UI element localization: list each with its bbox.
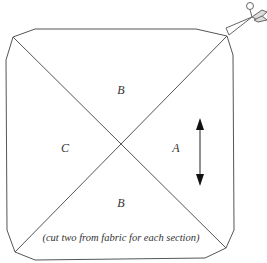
- diagonal-line-1: [13, 37, 226, 248]
- section-label-bottom: B: [117, 196, 125, 210]
- pattern-diagram: B C A B (cut two from fabric for each se…: [0, 0, 267, 263]
- section-label-right: A: [171, 141, 180, 155]
- double-arrow-icon: [196, 118, 204, 186]
- instruction-text: (cut two from fabric for each section): [42, 232, 200, 244]
- diagonal-line-2: [15, 36, 227, 252]
- section-label-left: C: [61, 141, 70, 155]
- scissors-icon: [226, 3, 267, 36]
- section-label-top: B: [117, 83, 125, 97]
